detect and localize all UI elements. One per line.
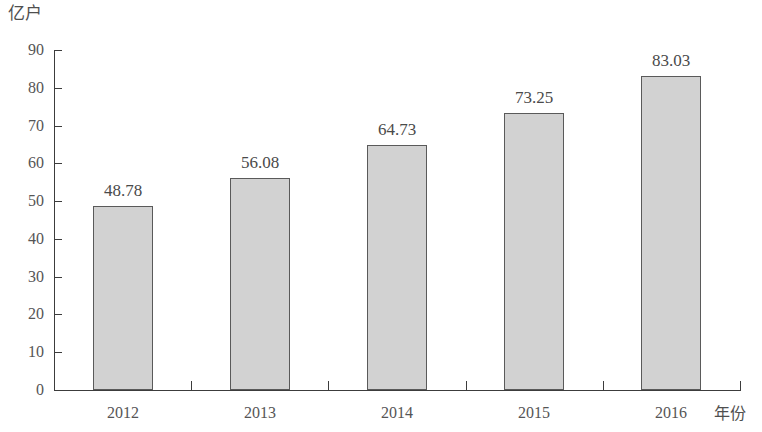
y-axis-tick-label: 30 xyxy=(0,269,44,285)
bar-chart: 亿户 年份 0102030405060708090 48.7856.0864.7… xyxy=(0,0,762,432)
y-axis-tick-label: 0 xyxy=(0,382,44,398)
y-axis-tick xyxy=(55,163,62,164)
bar-value-label: 83.03 xyxy=(626,51,716,70)
bar xyxy=(641,76,701,390)
y-axis-tick-label: 60 xyxy=(0,155,44,171)
x-axis-tick xyxy=(466,381,467,390)
x-axis-title: 年份 xyxy=(714,404,746,424)
bar-value-label: 73.25 xyxy=(489,88,579,107)
x-axis-tick-label: 2014 xyxy=(357,404,437,422)
y-axis-tick-label: 90 xyxy=(0,42,44,58)
y-axis-tick xyxy=(55,314,62,315)
bar-value-label: 56.08 xyxy=(215,153,305,172)
y-axis-tick xyxy=(55,126,62,127)
x-axis-tick xyxy=(328,381,329,390)
y-axis-tick-label: 20 xyxy=(0,306,44,322)
bar xyxy=(230,178,290,390)
y-axis-tick-label: 70 xyxy=(0,118,44,134)
y-axis-title: 亿户 xyxy=(8,4,42,24)
y-axis-tick xyxy=(55,352,62,353)
x-axis-tick-label: 2012 xyxy=(83,404,163,422)
x-axis-tick xyxy=(603,381,604,390)
x-axis-tick xyxy=(740,381,741,390)
x-axis-tick-label: 2016 xyxy=(631,404,711,422)
y-axis-tick-label: 50 xyxy=(0,193,44,209)
y-axis-tick xyxy=(55,239,62,240)
y-axis-tick xyxy=(55,201,62,202)
y-axis-line xyxy=(54,50,55,391)
y-axis-tick xyxy=(55,277,62,278)
y-axis-tick-label: 10 xyxy=(0,344,44,360)
y-axis-tick-label: 80 xyxy=(0,80,44,96)
bar-value-label: 48.78 xyxy=(78,181,168,200)
bar-value-label: 64.73 xyxy=(352,120,442,139)
x-axis-tick xyxy=(191,381,192,390)
x-axis-line xyxy=(54,390,741,391)
y-axis-tick-label: 40 xyxy=(0,231,44,247)
y-axis-tick xyxy=(55,88,62,89)
bar xyxy=(367,145,427,390)
bar xyxy=(504,113,564,390)
y-axis-tick xyxy=(55,50,62,51)
x-axis-tick-label: 2013 xyxy=(220,404,300,422)
x-axis-tick-label: 2015 xyxy=(494,404,574,422)
bar xyxy=(93,206,153,390)
